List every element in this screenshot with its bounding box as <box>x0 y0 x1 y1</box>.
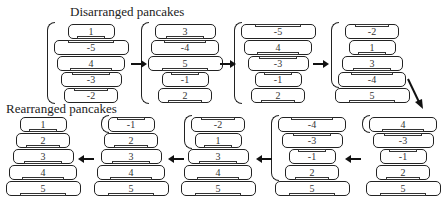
pancake-value: 4 <box>370 118 436 132</box>
pancake-value: 5 <box>367 182 440 196</box>
pancake: -4 <box>338 72 406 87</box>
pancake-value: 1 <box>196 134 241 148</box>
flip-bracket <box>47 22 55 104</box>
pancake: 4 <box>184 165 252 180</box>
pancake: -2 <box>191 117 245 132</box>
pancake: -3 <box>282 133 343 148</box>
pancake-value: 2 <box>17 134 69 148</box>
pancake: 2 <box>158 88 212 103</box>
pancake-value: 4 <box>58 57 124 71</box>
pancake-value: -2 <box>192 118 244 132</box>
pancake: 4 <box>57 56 125 71</box>
pancake-value: -5 <box>242 25 315 39</box>
pancake: -3 <box>373 133 434 148</box>
arrow-left-icon <box>256 154 272 164</box>
pancake-value: -4 <box>279 118 345 132</box>
pancake: 5 <box>275 181 350 196</box>
pancake: -5 <box>241 24 316 39</box>
arrow-right-icon <box>131 59 147 69</box>
pancake: -1 <box>162 72 209 87</box>
pancake: -1 <box>289 149 336 164</box>
disarranged-title: Disarranged pancakes <box>70 4 184 20</box>
pancake-value: -3 <box>374 134 433 148</box>
flip-bracket <box>362 115 370 133</box>
pancake: 3 <box>155 24 216 39</box>
pancake-value: 1 <box>21 118 66 132</box>
pancake-value: -5 <box>55 41 128 55</box>
pancake-value: 2 <box>286 166 338 180</box>
pancake-value: 5 <box>7 182 80 196</box>
arrow-left-icon <box>168 154 184 164</box>
pancake-value: -3 <box>249 57 308 71</box>
pancake: 2 <box>104 133 158 148</box>
pancake: -4 <box>278 117 346 132</box>
pancake: 1 <box>349 40 396 55</box>
arrow-right-icon <box>220 59 236 69</box>
pancake: -1 <box>255 72 302 87</box>
pancake-value: -3 <box>283 134 342 148</box>
pancake: 4 <box>97 165 165 180</box>
pancake-value: 5 <box>149 57 222 71</box>
pancake-value: 5 <box>95 182 168 196</box>
pancake: 5 <box>6 181 81 196</box>
pancake: 2 <box>251 88 305 103</box>
pancake: 4 <box>9 165 77 180</box>
pancake: 2 <box>16 133 70 148</box>
pancake: -2 <box>64 88 118 103</box>
flip-bracket <box>184 115 192 149</box>
pancake-value: -2 <box>65 89 117 103</box>
pancake: 1 <box>195 133 242 148</box>
pancake: -2 <box>345 24 399 39</box>
pancake-value: 4 <box>98 166 164 180</box>
pancake: 5 <box>148 56 223 71</box>
pancake-value: 4 <box>185 166 251 180</box>
arrow-right-icon <box>313 59 329 69</box>
pancake-value: -4 <box>152 41 218 55</box>
pancake-value: 2 <box>105 134 157 148</box>
pancake: -3 <box>248 56 309 71</box>
pancake-value: 5 <box>336 89 409 103</box>
flip-bracket <box>101 115 109 133</box>
pancake-value: 5 <box>276 182 349 196</box>
pancake: 4 <box>244 40 312 55</box>
pancake: 3 <box>188 149 249 164</box>
pancake-value: -1 <box>256 73 301 87</box>
pancake-value: 5 <box>182 182 255 196</box>
pancake-value: 1 <box>69 25 114 39</box>
pancake: 5 <box>335 88 410 103</box>
pancake: 2 <box>376 165 430 180</box>
pancake-value: 3 <box>189 150 248 164</box>
arrow-left-icon <box>345 154 361 164</box>
arrow-left-icon <box>78 154 94 164</box>
pancake-value: 2 <box>377 166 429 180</box>
pancake-value: -4 <box>339 73 405 87</box>
pancake: 1 <box>68 24 115 39</box>
pancake-value: -1 <box>381 150 426 164</box>
pancake-value: -1 <box>163 73 208 87</box>
pancake: 5 <box>94 181 169 196</box>
pancake: 1 <box>20 117 67 132</box>
pancake-value: -1 <box>109 118 154 132</box>
pancake: 4 <box>369 117 437 132</box>
pancake: 3 <box>101 149 162 164</box>
pancake-value: 4 <box>245 41 311 55</box>
pancake-value: 2 <box>252 89 304 103</box>
pancake-value: -1 <box>290 150 335 164</box>
pancake: -1 <box>108 117 155 132</box>
pancake: 3 <box>342 56 403 71</box>
pancake-value: 3 <box>343 57 402 71</box>
pancake: 3 <box>13 149 74 164</box>
pancake-value: 3 <box>102 150 161 164</box>
flip-bracket <box>331 22 339 88</box>
pancake: -4 <box>151 40 219 55</box>
pancake-value: -2 <box>346 25 398 39</box>
pancake-value: 4 <box>10 166 76 180</box>
pancake-value: 1 <box>350 41 395 55</box>
pancake: -5 <box>54 40 129 55</box>
pancake: -3 <box>61 72 122 87</box>
pancake: 5 <box>181 181 256 196</box>
pancake: 5 <box>366 181 441 196</box>
flip-bracket <box>271 115 279 181</box>
pancake-value: 3 <box>156 25 215 39</box>
pancake: 2 <box>285 165 339 180</box>
